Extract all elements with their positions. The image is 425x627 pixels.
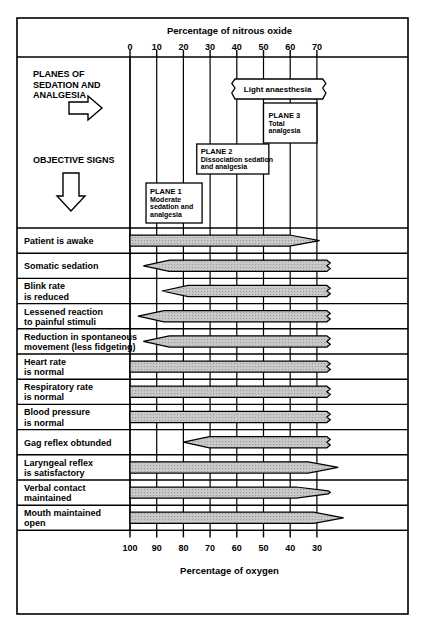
sign-bar	[130, 386, 330, 397]
sign-bar	[130, 411, 330, 422]
objective-signs-header: OBJECTIVE SIGNS	[33, 155, 115, 165]
sign-bar	[130, 512, 344, 523]
bottom-tick-100: 100	[122, 543, 137, 553]
row-label: Patient is awake	[24, 236, 94, 246]
row-label: is normal	[24, 418, 64, 428]
planes-header-line-2: SEDATION AND	[33, 80, 101, 90]
row-label: is reduced	[24, 292, 69, 302]
plane-1-line-3: sedation and	[150, 203, 193, 210]
plane-3: PLANE 3Totalanalgesia	[264, 103, 317, 143]
row-label: maintained	[24, 493, 72, 503]
sign-bar	[162, 285, 330, 296]
plane-2-line-2: Dissociation sedation	[201, 156, 273, 163]
bottom-axis-title: Percentage of oxygen	[180, 565, 279, 576]
row-label: is normal	[24, 367, 64, 377]
row-label: Blood pressure	[24, 407, 90, 417]
row-label: is satisfactory	[24, 468, 85, 478]
plane-1-line-2: Moderate	[150, 196, 181, 203]
row-label: open	[24, 518, 46, 528]
bottom-tick-80: 80	[178, 543, 188, 553]
row-label: Somatic sedation	[24, 261, 99, 271]
row-label: Blink rate	[24, 281, 65, 291]
plane-3-line-2: Total	[269, 120, 285, 127]
row-label: is normal	[24, 392, 64, 402]
nitrous-oxide-sedation-chart: Percentage of nitrous oxide0102030405060…	[0, 0, 425, 627]
bottom-tick-90: 90	[152, 543, 162, 553]
plane-light-anaesthesia-line-1: Light anaesthesia	[244, 85, 312, 94]
plane-1-line-4: analgesia	[150, 211, 182, 219]
plane-3-line-3: analgesia	[269, 127, 301, 135]
sign-bar	[138, 311, 330, 322]
bottom-tick-40: 40	[285, 543, 295, 553]
sign-bar	[183, 437, 330, 448]
planes-header-line-1: PLANES OF	[33, 69, 85, 79]
row-label: Heart rate	[24, 357, 66, 367]
plane-2: PLANE 2Dissociation sedationand analgesi…	[197, 144, 273, 174]
sign-bar	[130, 235, 320, 246]
planes-header-line-3: ANALGESIA	[33, 90, 87, 100]
plane-light-anaesthesia: Light anaesthesia	[232, 79, 326, 99]
sign-bar	[143, 336, 330, 347]
chart-canvas: Percentage of nitrous oxide0102030405060…	[0, 0, 425, 627]
row-label: Mouth maintained	[24, 508, 101, 518]
row-label: movement (less fidgeting)	[24, 342, 136, 352]
bottom-tick-60: 60	[232, 543, 242, 553]
sign-bar	[130, 361, 330, 372]
sign-bar	[130, 462, 338, 473]
row-label: Gag reflex obtunded	[24, 438, 112, 448]
bottom-tick-30: 30	[312, 543, 322, 553]
plane-2-line-3: and analgesia	[201, 163, 247, 171]
row-label: Reduction in spontaneous	[24, 332, 137, 342]
row-label: Lessened reaction	[24, 307, 103, 317]
plane-1: PLANE 1Moderatesedation andanalgesia	[146, 183, 202, 223]
row-label: Laryngeal reflex	[24, 458, 93, 468]
row-label: to painful stimuli	[24, 317, 96, 327]
bottom-tick-70: 70	[205, 543, 215, 553]
sign-bar	[143, 260, 330, 271]
row-label: Verbal contact	[24, 483, 86, 493]
top-axis-title: Percentage of nitrous oxide	[167, 25, 292, 36]
row-label: Respiratory rate	[24, 382, 93, 392]
bottom-tick-50: 50	[258, 543, 268, 553]
sign-bar	[130, 487, 330, 498]
